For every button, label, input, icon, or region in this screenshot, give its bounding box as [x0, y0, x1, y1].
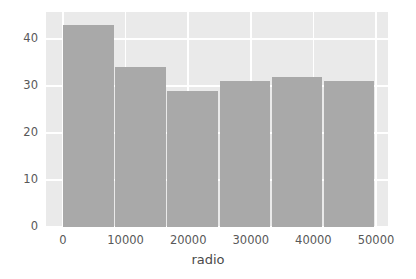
histogram-figure: 010203040 01000020000300004000050000 rad… [0, 0, 416, 279]
x-tick-label: 30000 [233, 235, 270, 247]
bar [63, 25, 114, 227]
plot-area [46, 12, 388, 227]
y-tick-label: 40 [4, 33, 38, 45]
x-tick-label: 10000 [107, 235, 144, 247]
y-tick-label: 30 [4, 80, 38, 92]
bar [167, 91, 218, 227]
x-tick-label: 20000 [170, 235, 207, 247]
y-tick-label: 20 [4, 127, 38, 139]
x-tick-label: 50000 [358, 235, 395, 247]
x-axis-label: radio [0, 252, 416, 267]
bar [272, 77, 323, 227]
x-tick-label: 40000 [295, 235, 332, 247]
y-tick-label: 0 [4, 221, 38, 233]
x-tick-label: 0 [59, 235, 66, 247]
bar [324, 81, 375, 227]
bar [220, 81, 271, 227]
bar-series [46, 12, 388, 227]
y-tick-label: 10 [4, 174, 38, 186]
bar [115, 67, 166, 227]
